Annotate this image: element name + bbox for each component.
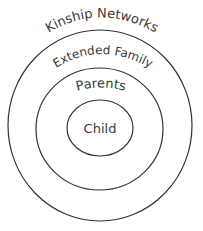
parents-label: Parents [74, 75, 127, 93]
extended-family-label: Extended Family [50, 43, 155, 71]
diagram-svg: Kinship Networks Extended Family Parents… [0, 0, 203, 231]
kinship-diagram: Kinship Networks Extended Family Parents… [0, 0, 203, 231]
kinship-networks-label: Kinship Networks [43, 5, 162, 35]
child-label: Child [84, 121, 117, 136]
